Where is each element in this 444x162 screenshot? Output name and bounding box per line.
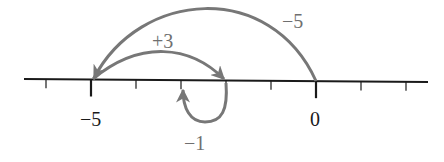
axis-label-minus-5: −5 [80, 108, 101, 130]
number-line-diagram: −5 0 −5 +3 −1 [0, 0, 444, 162]
jump-arrow-minus-1 [183, 83, 226, 122]
number-line-svg: −5 0 −5 +3 −1 [0, 0, 444, 162]
axis-label-zero: 0 [310, 108, 320, 130]
jump-label-minus-1: −1 [184, 132, 205, 154]
jump-label-minus-5: −5 [282, 10, 303, 32]
jump-arrow-plus-3 [93, 52, 224, 79]
jump-label-plus-3: +3 [152, 30, 173, 52]
